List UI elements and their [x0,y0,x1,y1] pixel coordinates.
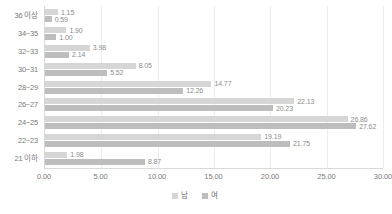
bar-line: 12.26 [45,88,383,94]
bar-line: 1.00 [45,34,383,40]
legend-item[interactable]: 여 [202,192,218,200]
x-tick-label: 25.00 [317,172,335,181]
bar-line: 1.90 [45,27,383,33]
plot-area: 1.150.591.901.003.982.148.055.5214.7712.… [44,6,383,169]
bar-value-label: 1.00 [59,34,72,41]
x-tick-label: 20.00 [261,172,279,181]
bar-value-label: 3.98 [93,44,106,51]
legend-label: 여 [211,192,218,200]
bar-line: 3.98 [45,45,383,51]
bar-남[interactable] [45,116,348,122]
x-tick-label: 15.00 [204,172,222,181]
bar-line: 21.75 [45,141,383,147]
bar-남[interactable] [45,98,294,104]
bar-group: 1.988.87 [45,149,383,167]
bar-line: 14.77 [45,81,383,87]
category-label: 21 이하 [0,150,41,168]
bar-value-label: 14.77 [214,80,231,87]
x-tick-label: 0.00 [37,172,51,181]
bar-남[interactable] [45,45,90,51]
x-tick-label: 30.00 [374,172,392,181]
bar-line: 22.13 [45,98,383,104]
bar-line: 2.14 [45,52,383,58]
bar-rows: 1.150.591.901.003.982.148.055.5214.7712.… [45,6,383,168]
bar-value-label: 1.15 [61,9,74,16]
bar-line: 5.52 [45,70,383,76]
bar-여[interactable] [45,16,52,22]
bar-value-label: 20.23 [276,105,293,112]
value-axis: 0.005.0010.0015.0020.0025.0030.00 [44,172,383,184]
bar-value-label: 26.86 [351,116,368,123]
legend-swatch-icon [202,193,208,199]
bar-남[interactable] [45,9,58,15]
bar-value-label: 1.90 [69,27,82,34]
bar-value-label: 1.98 [70,151,83,158]
category-label: 34~35 [0,25,41,43]
category-label: 26~27 [0,96,41,114]
bar-value-label: 8.05 [139,62,152,69]
bar-line: 0.59 [45,16,383,22]
bar-group: 8.055.52 [45,60,383,78]
bar-value-label: 12.26 [186,87,203,94]
bar-group: 1.150.59 [45,7,383,25]
category-label: 30~31 [0,61,41,79]
bar-line: 20.23 [45,105,383,111]
bar-value-label: 19.19 [264,133,281,140]
bar-여[interactable] [45,123,356,129]
bar-group: 3.982.14 [45,43,383,61]
category-axis: 36 이상34~3532~3330~3128~2926~2724~2522~23… [0,6,41,169]
bar-value-label: 0.59 [55,16,68,23]
bar-line: 1.98 [45,152,383,158]
bar-group: 26.8627.62 [45,114,383,132]
bar-여[interactable] [45,34,56,40]
bar-여[interactable] [45,159,145,165]
bar-group: 1.901.00 [45,25,383,43]
bar-line: 27.62 [45,123,383,129]
bar-여[interactable] [45,105,273,111]
category-label: 28~29 [0,79,41,97]
x-tick-label: 5.00 [93,172,107,181]
category-label: 32~33 [0,43,41,61]
bar-여[interactable] [45,88,183,94]
bar-value-label: 2.14 [72,51,85,58]
bar-value-label: 22.13 [297,98,314,105]
bar-group: 14.7712.26 [45,78,383,96]
bar-value-label: 8.87 [148,158,161,165]
bar-여[interactable] [45,52,69,58]
bar-여[interactable] [45,141,290,147]
gridline [383,6,384,168]
bar-여[interactable] [45,70,107,76]
bar-line: 8.05 [45,63,383,69]
bar-line: 8.87 [45,159,383,165]
bar-남[interactable] [45,27,66,33]
legend-label: 남 [181,192,188,200]
chart-legend: 남여 [0,192,390,200]
legend-swatch-icon [172,193,178,199]
bar-line: 1.15 [45,9,383,15]
legend-item[interactable]: 남 [172,192,188,200]
bar-남[interactable] [45,81,211,87]
bar-value-label: 21.75 [293,140,310,147]
bar-남[interactable] [45,152,67,158]
bar-남[interactable] [45,63,136,69]
bar-group: 22.1320.23 [45,96,383,114]
category-label: 36 이상 [0,7,41,25]
x-tick-label: 10.00 [148,172,166,181]
bar-line: 19.19 [45,134,383,140]
bar-남[interactable] [45,134,261,140]
bar-line: 26.86 [45,116,383,122]
bar-value-label: 5.52 [110,69,123,76]
bar-value-label: 27.62 [359,123,376,130]
category-label: 24~25 [0,114,41,132]
category-label: 22~23 [0,132,41,150]
bar-group: 19.1921.75 [45,131,383,149]
